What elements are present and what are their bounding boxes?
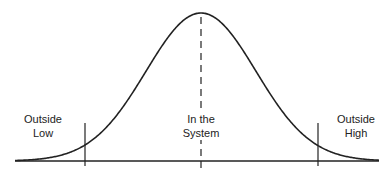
region-label-line1: In the	[176, 112, 226, 126]
region-label-line2: System	[176, 126, 226, 140]
region-label-line1: Outside	[19, 112, 67, 126]
region-label-line1: Outside	[332, 112, 379, 126]
region-label-outside-low: Outside Low	[19, 112, 67, 140]
region-label-line2: Low	[19, 126, 67, 140]
region-label-in-the-system: In the System	[176, 112, 226, 140]
region-label-line2: High	[332, 126, 379, 140]
region-label-outside-high: Outside High	[332, 112, 379, 140]
bell-curve-diagram	[0, 0, 379, 171]
